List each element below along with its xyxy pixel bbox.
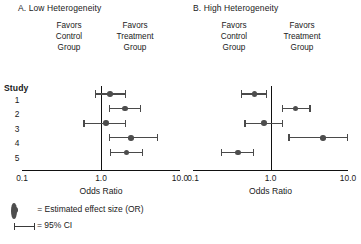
confidence-interval-bar — [288, 137, 348, 138]
favors-control-line-2: Control — [205, 31, 263, 42]
favors-treatment-line-2: Treatment — [102, 31, 168, 42]
confidence-interval-cap-upper — [347, 134, 348, 141]
effect-size-marker — [252, 91, 258, 97]
effect-size-marker — [261, 120, 267, 126]
favors-control-line-3: Group — [40, 42, 98, 53]
panel-b-favors-control: Favors Control Group — [205, 20, 263, 54]
legend-row-confidence-interval: = 95% CI — [14, 219, 254, 235]
panel-a: A. Low Heterogeneity Favors Control Grou… — [0, 0, 182, 200]
panel-b-x-axis — [193, 170, 348, 171]
confidence-interval-cap-upper — [125, 120, 126, 127]
confidence-interval-cap-upper — [142, 149, 143, 156]
favors-control-line-3: Group — [205, 42, 263, 53]
legend-row-effect-size: = Estimated effect size (OR) — [11, 203, 17, 219]
legend-effect-size-text: = Estimated effect size (OR) — [37, 204, 143, 214]
confidence-interval-cap-upper — [282, 120, 283, 127]
confidence-interval-cap-lower — [244, 120, 245, 127]
favors-treatment-line-2: Treatment — [269, 31, 335, 42]
confidence-interval-cap-upper — [309, 105, 310, 112]
favors-control-line-2: Control — [40, 31, 98, 42]
effect-size-marker — [107, 91, 113, 97]
panel-a-plot-area — [22, 88, 180, 170]
favors-control-line-1: Favors — [205, 20, 263, 31]
panel-a-favors-control: Favors Control Group — [40, 20, 98, 54]
confidence-interval-cap-lower — [109, 105, 110, 112]
x-tick-label: 0.1 — [173, 173, 213, 183]
favors-control-line-1: Favors — [40, 20, 98, 31]
confidence-interval-cap-upper — [125, 90, 126, 97]
error-bar-cap-left-icon — [14, 223, 15, 230]
confidence-interval-cap-lower — [110, 149, 111, 156]
confidence-interval-cap-lower — [95, 90, 96, 97]
confidence-interval-cap-lower — [83, 120, 84, 127]
x-tick-label: 1.0 — [251, 173, 291, 183]
confidence-interval-cap-lower — [288, 134, 289, 141]
favors-treatment-line-1: Favors — [269, 20, 335, 31]
effect-size-marker — [124, 150, 130, 156]
panel-a-x-axis-title: Odds Ratio — [22, 186, 180, 196]
favors-treatment-line-3: Group — [102, 42, 168, 53]
x-tick-label: 10.0 — [328, 173, 361, 183]
panel-b-plot-area — [193, 88, 348, 170]
panel-b-x-axis-title: Odds Ratio — [193, 186, 348, 196]
favors-treatment-line-3: Group — [269, 42, 335, 53]
panel-b-favors-treatment: Favors Treatment Group — [269, 20, 335, 54]
favors-treatment-line-1: Favors — [102, 20, 168, 31]
effect-size-marker — [122, 106, 128, 112]
confidence-interval-cap-lower — [109, 134, 110, 141]
effect-size-marker — [320, 135, 326, 141]
panel-a-favors-treatment: Favors Treatment Group — [102, 20, 168, 54]
confidence-interval-cap-upper — [157, 134, 158, 141]
effect-size-marker — [103, 120, 109, 126]
panel-b-reference-line — [271, 86, 272, 170]
x-tick-label: 0.1 — [2, 173, 42, 183]
confidence-interval-cap-lower — [221, 149, 222, 156]
effect-size-marker — [235, 150, 241, 156]
panel-b-title: B. High Heterogeneity — [193, 3, 278, 13]
filled-circle-icon — [12, 207, 18, 213]
effect-size-marker — [293, 106, 299, 112]
legend-ci-text: = 95% CI — [37, 220, 72, 230]
effect-size-marker — [128, 135, 134, 141]
confidence-interval-cap-upper — [253, 149, 254, 156]
error-bar-cap-right-icon — [34, 223, 35, 230]
panel-a-x-axis — [22, 170, 180, 171]
panel-a-title: A. Low Heterogeneity — [18, 3, 101, 13]
confidence-interval-cap-upper — [266, 90, 267, 97]
confidence-interval-cap-lower — [241, 90, 242, 97]
panel-a-reference-line — [101, 86, 102, 170]
confidence-interval-cap-lower — [282, 105, 283, 112]
x-tick-label: 1.0 — [81, 173, 121, 183]
error-bar-icon — [14, 226, 35, 227]
confidence-interval-cap-upper — [140, 105, 141, 112]
panel-b: B. High Heterogeneity Favors Control Gro… — [177, 0, 354, 200]
figure-legend: = Estimated effect size (OR) = 95% CI — [14, 206, 254, 235]
